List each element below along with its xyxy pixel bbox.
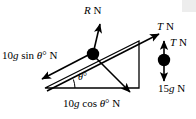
label-weight-hanging-unit: N xyxy=(175,82,186,94)
label-tension-incline-unit: N xyxy=(163,20,174,32)
block-on-incline xyxy=(87,48,99,60)
label-incline-angle: θ° xyxy=(78,72,87,82)
hanging-mass xyxy=(158,54,170,66)
label-perpendicular-unit: ° N xyxy=(105,97,120,109)
label-incline-angle-degree: ° xyxy=(83,71,87,82)
label-tension-hanging-unit: N xyxy=(176,36,187,48)
label-perpendicular-prefix: 10 xyxy=(63,97,74,109)
label-parallel-unit: ° N xyxy=(42,49,57,61)
label-perpendicular-trig: cos xyxy=(80,97,100,109)
incline-angle-arc xyxy=(73,80,75,89)
tension-up-incline-arrow xyxy=(47,34,159,91)
label-weight-hanging: 15g N xyxy=(158,83,185,94)
label-tension-incline: T N xyxy=(157,21,174,32)
label-parallel-trig: sin xyxy=(19,49,37,61)
label-normal-reaction-unit: N xyxy=(91,4,102,16)
label-normal-reaction-symbol: R xyxy=(84,4,91,16)
label-weight-hanging-prefix: 15 xyxy=(158,82,169,94)
label-weight-component-parallel: 10g sin θ° N xyxy=(2,50,57,61)
label-normal-reaction: R N xyxy=(84,5,101,16)
force-diagram: R N T N T N 15g N 10g sin θ° N 10g cos θ… xyxy=(0,0,196,119)
label-weight-component-perpendicular: 10g cos θ° N xyxy=(63,98,120,109)
label-parallel-prefix: 10 xyxy=(2,49,13,61)
weight-perpendicular-arrow xyxy=(93,55,130,92)
label-tension-hanging: T N xyxy=(170,37,187,48)
